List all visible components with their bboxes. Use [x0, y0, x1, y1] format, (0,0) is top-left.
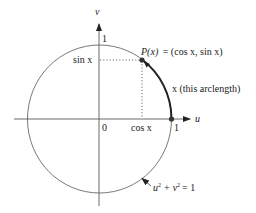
sin-label: sin x [73, 54, 92, 65]
arclength-arc [142, 60, 172, 120]
v-axis-label: v [95, 6, 100, 17]
v-one-label: 1 [102, 33, 107, 44]
circle-eq-pointer [142, 179, 151, 187]
point-label: P(x) = (cos x, sin x) [140, 46, 223, 58]
point-one-zero [169, 116, 174, 121]
arc-label: x (this arclength) [172, 83, 240, 95]
point-equation: = (cos x, sin x) [163, 46, 223, 58]
point-p [139, 57, 144, 62]
circle-equation: u2+v2= 1 [153, 182, 195, 193]
origin-label: 0 [102, 122, 107, 133]
u-axis-label: u [195, 113, 200, 124]
u-one-label: 1 [174, 122, 179, 133]
unit-circle-diagram: v 1 u 0 1 sin x cos x P(x) = (cos x, sin… [0, 0, 256, 213]
point-name: P(x) [140, 46, 159, 58]
cos-label: cos x [131, 122, 152, 133]
